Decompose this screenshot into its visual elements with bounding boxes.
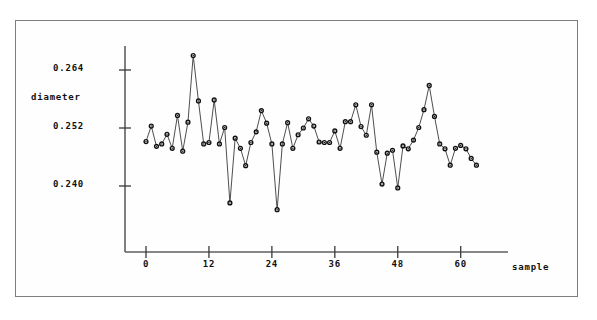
data-point-core — [182, 150, 184, 152]
data-point-core — [192, 55, 194, 57]
data-point-core — [434, 116, 436, 118]
x-tick-label: 48 — [392, 259, 404, 269]
y-axis-title: diameter — [31, 92, 81, 102]
data-point-core — [460, 145, 462, 147]
data-point-core — [397, 187, 399, 189]
data-point-core — [366, 135, 368, 137]
data-point-core — [339, 148, 341, 150]
y-tick-label-0252: 0.252 — [53, 121, 84, 131]
data-point-core — [292, 148, 294, 150]
data-point-core — [151, 125, 153, 127]
data-point-core — [250, 142, 252, 144]
data-point-core — [318, 141, 320, 143]
data-point-core — [255, 131, 257, 133]
x-tick-label: 36 — [329, 259, 341, 269]
data-point-core — [392, 149, 394, 151]
data-point-core — [308, 118, 310, 120]
data-series-line — [146, 56, 476, 210]
data-point-core — [428, 85, 430, 87]
data-point-core — [203, 143, 205, 145]
data-point-core — [166, 134, 168, 136]
data-point-core — [329, 142, 331, 144]
data-point-core — [418, 127, 420, 128]
data-point-core — [171, 148, 173, 150]
y-tick-label-0240: 0.240 — [53, 179, 84, 189]
data-point-core — [313, 125, 315, 127]
data-point-core — [177, 115, 179, 117]
data-point-core — [145, 141, 147, 143]
data-point-core — [229, 202, 231, 204]
data-point-core — [245, 165, 247, 167]
data-point-core — [413, 139, 415, 141]
data-point-core — [266, 122, 268, 124]
data-point-core — [376, 151, 378, 153]
data-point-markers — [144, 54, 478, 212]
data-point-core — [449, 164, 451, 166]
data-point-core — [303, 127, 305, 129]
data-point-core — [198, 100, 200, 102]
data-point-core — [470, 158, 472, 160]
screenshot-root: 0.264 0.252 0.240 diameter sample 012243… — [0, 0, 597, 320]
data-point-core — [455, 148, 457, 150]
data-point-core — [381, 183, 383, 185]
data-point-core — [240, 148, 242, 150]
data-point-core — [187, 121, 189, 123]
y-tick-label-0264: 0.264 — [53, 63, 84, 73]
data-point-core — [423, 109, 425, 111]
data-point-core — [345, 121, 347, 123]
data-point-core — [282, 143, 284, 145]
data-point-core — [402, 145, 404, 147]
x-tick-label: 24 — [266, 259, 278, 269]
data-point-core — [324, 142, 326, 144]
data-point-core — [408, 148, 410, 150]
x-tick-label: 60 — [454, 259, 466, 269]
data-point-core — [360, 126, 362, 128]
data-point-core — [465, 148, 467, 150]
data-point-core — [224, 127, 226, 128]
x-axis-title: sample — [512, 262, 549, 272]
data-point-core — [161, 143, 163, 145]
data-point-core — [350, 121, 352, 123]
data-point-core — [297, 134, 299, 136]
x-tick-label: 12 — [203, 259, 215, 269]
data-point-core — [234, 137, 236, 139]
data-point-core — [355, 104, 357, 106]
line-chart — [0, 0, 597, 320]
data-point-core — [261, 110, 263, 112]
data-point-core — [444, 148, 446, 150]
data-point-core — [208, 142, 210, 144]
data-point-core — [213, 99, 215, 101]
data-point-core — [371, 104, 373, 106]
data-point-core — [439, 143, 441, 145]
x-tick-label: 0 — [143, 259, 149, 269]
chart-plot-area: 0.264 0.252 0.240 diameter sample 012243… — [0, 0, 597, 320]
data-point-core — [219, 143, 221, 145]
data-point-core — [276, 209, 278, 211]
data-point-core — [287, 122, 289, 124]
data-point-core — [271, 143, 273, 145]
data-point-core — [476, 164, 478, 166]
data-point-core — [387, 152, 389, 154]
data-point-core — [156, 146, 158, 148]
data-point-core — [334, 130, 336, 132]
